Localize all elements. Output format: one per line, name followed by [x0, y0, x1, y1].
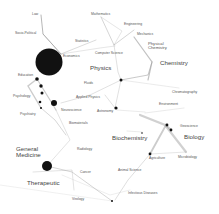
label-fluids: Fluids [84, 82, 93, 85]
label-cancer: Cancer [80, 171, 91, 174]
label-general-medicine: General Medicine [16, 146, 41, 158]
label-psychiatry: Psychiatry [20, 113, 36, 116]
label-economics: Economics [63, 55, 80, 58]
label-physics: Physics [90, 65, 111, 71]
label-education: Education [18, 74, 33, 77]
label-virology: Virology [72, 198, 84, 201]
label-computer-science: Computer Science [95, 52, 123, 55]
node-general-medicine [42, 161, 52, 171]
label-microbiology: Microbiology [178, 156, 197, 159]
label-statistics: Statistics [75, 40, 89, 43]
label-agriculture: Agriculture [149, 157, 165, 160]
label-psychology: Psychology [13, 95, 30, 98]
label-biology: Biology [184, 134, 204, 140]
label-engineering: Engineering [124, 23, 142, 26]
label-astronomy: Astronomy [97, 110, 113, 113]
label-applied-physics: Applied Physics [76, 96, 100, 99]
label-mechanics: Mechanics [137, 33, 153, 36]
label-chromatography: Chromatography [172, 91, 197, 94]
label-biochemistry: Biochemistry [112, 135, 147, 141]
label-radiology: Radiology [77, 148, 92, 151]
label-infectious-diseases: Infectious Diseases [128, 192, 157, 195]
label-therapeutic: Therapeutic [27, 180, 60, 186]
label-geoscience: Geoscience [180, 125, 198, 128]
label-chemistry: Chemistry [160, 60, 188, 66]
label-environment: Environment [159, 103, 178, 106]
label-animal-science: Animal Science [118, 169, 141, 172]
label-law: Law [32, 13, 38, 16]
label-socio-political: Socio-Political [15, 32, 36, 35]
label-mathematics: Mathematics [91, 13, 110, 16]
node-economics-large [36, 49, 63, 76]
label-physical-chemistry: Physical Chemistry [148, 42, 167, 50]
label-neuroscience: Neuroscience [61, 109, 82, 112]
label-biomaterials: Biomaterials [69, 122, 88, 125]
